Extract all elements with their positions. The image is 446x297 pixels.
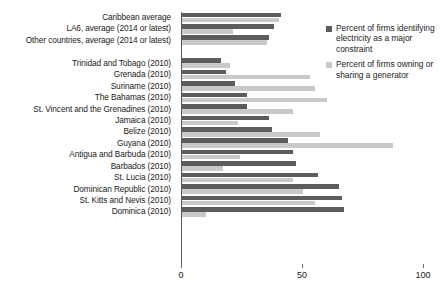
x-axis-tick-label: 0 bbox=[178, 270, 183, 280]
category-label: St. Kitts and Nevis (2010) bbox=[0, 195, 176, 206]
bar-series-1 bbox=[182, 35, 269, 40]
bar-series-2 bbox=[182, 75, 310, 80]
bar-series-1 bbox=[182, 207, 344, 212]
bar-series-2 bbox=[182, 98, 327, 103]
bar-series-2 bbox=[182, 121, 238, 126]
bar-series-2 bbox=[182, 212, 206, 217]
category-label: St. Vincent and the Grenadines (2010) bbox=[0, 104, 176, 115]
bar-series-2 bbox=[182, 201, 315, 206]
bar-series-1 bbox=[182, 138, 288, 143]
bar-row bbox=[181, 195, 424, 206]
bar-row bbox=[181, 92, 424, 103]
category-label-spacer bbox=[0, 46, 176, 57]
category-label: Guyana (2010) bbox=[0, 138, 176, 149]
bar-series-1 bbox=[182, 173, 318, 178]
category-label: LA6, average (2014 or latest) bbox=[0, 23, 176, 34]
bar-series-2 bbox=[182, 63, 230, 68]
category-label: Caribbean average bbox=[0, 12, 176, 23]
category-label: The Bahamas (2010) bbox=[0, 92, 176, 103]
category-label: Antigua and Barbuda (2010) bbox=[0, 149, 176, 160]
category-label: Belize (2010) bbox=[0, 126, 176, 137]
bar-series-2 bbox=[182, 178, 293, 183]
bar-row bbox=[181, 184, 424, 195]
bar-row bbox=[181, 12, 424, 23]
bar-series-2 bbox=[182, 40, 267, 45]
bar-series-1 bbox=[182, 116, 269, 121]
x-axis-labels: 050100 bbox=[181, 270, 431, 284]
category-label: Suriname (2010) bbox=[0, 81, 176, 92]
bar-row bbox=[181, 126, 424, 137]
x-axis-tick-label: 100 bbox=[415, 270, 430, 280]
bar-series-2 bbox=[182, 86, 315, 91]
category-label-column: Caribbean averageLA6, average (2014 or l… bbox=[0, 12, 176, 218]
bar-series-1 bbox=[182, 93, 247, 98]
chart-legend: Percent of firms identifying electricity… bbox=[326, 23, 444, 85]
bar-series-1 bbox=[182, 81, 235, 86]
bar-series-1 bbox=[182, 196, 342, 201]
legend-swatch-icon bbox=[326, 62, 332, 68]
bar-series-2 bbox=[182, 29, 233, 34]
bar-series-1 bbox=[182, 104, 247, 109]
bar-series-1 bbox=[182, 58, 221, 63]
bar-series-1 bbox=[182, 70, 226, 75]
bar-series-2 bbox=[182, 143, 393, 148]
bar-row bbox=[181, 206, 424, 217]
bar-chart: Caribbean averageLA6, average (2014 or l… bbox=[0, 0, 446, 297]
bar-series-2 bbox=[182, 155, 240, 160]
bar-series-2 bbox=[182, 109, 293, 114]
bar-series-1 bbox=[182, 184, 339, 189]
category-label: Grenada (2010) bbox=[0, 69, 176, 80]
x-axis-tick bbox=[302, 264, 303, 268]
legend-swatch-icon bbox=[326, 26, 332, 32]
bar-series-2 bbox=[182, 189, 303, 194]
legend-item[interactable]: Percent of firms identifying electricity… bbox=[326, 23, 444, 54]
bar-row bbox=[181, 104, 424, 115]
bar-series-1 bbox=[182, 127, 272, 132]
legend-item[interactable]: Percent of firms owning or sharing a gen… bbox=[326, 59, 444, 80]
bar-series-2 bbox=[182, 132, 320, 137]
bar-series-1 bbox=[182, 150, 293, 155]
category-label: Barbados (2010) bbox=[0, 161, 176, 172]
x-axis-tick bbox=[423, 264, 424, 268]
category-label: Dominican Republic (2010) bbox=[0, 184, 176, 195]
bar-series-1 bbox=[182, 24, 274, 29]
bar-row bbox=[181, 115, 424, 126]
bar-row bbox=[181, 172, 424, 183]
category-label: Dominica (2010) bbox=[0, 206, 176, 217]
legend-label: Percent of firms owning or sharing a gen… bbox=[336, 59, 444, 80]
legend-label: Percent of firms identifying electricity… bbox=[336, 23, 444, 54]
x-axis-tick-label: 50 bbox=[297, 270, 307, 280]
category-label: Other countries, average (2014 or latest… bbox=[0, 35, 176, 46]
bar-series-2 bbox=[182, 18, 279, 23]
bar-series-1 bbox=[182, 161, 296, 166]
bar-row bbox=[181, 149, 424, 160]
bar-row bbox=[181, 138, 424, 149]
category-label: Trinidad and Tobago (2010) bbox=[0, 58, 176, 69]
category-label: St. Lucia (2010) bbox=[0, 172, 176, 183]
category-label: Jamaica (2010) bbox=[0, 115, 176, 126]
bar-series-1 bbox=[182, 13, 281, 18]
x-axis-tick bbox=[181, 264, 182, 268]
bar-series-2 bbox=[182, 166, 223, 171]
bar-row bbox=[181, 161, 424, 172]
